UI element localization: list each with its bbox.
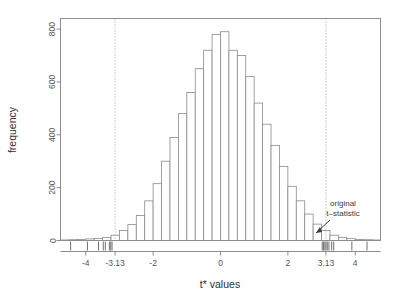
y-axis-title: frequency xyxy=(6,106,18,153)
histogram-bar xyxy=(136,215,144,240)
histogram-bar xyxy=(237,56,245,241)
y-tick-label: 200 xyxy=(48,180,58,194)
histogram-bar xyxy=(246,77,254,241)
histogram-bar xyxy=(305,214,313,240)
histogram-bar xyxy=(229,50,237,240)
histogram-bar xyxy=(162,161,170,240)
histogram-bar xyxy=(288,186,296,240)
histogram-bar xyxy=(170,137,178,240)
histogram-bar xyxy=(145,201,153,241)
x-tick-label: 3.13 xyxy=(318,258,335,268)
annotation-line-1: original xyxy=(330,199,356,208)
annotation-line-2: t–statistic xyxy=(326,209,359,218)
histogram-bar xyxy=(128,225,136,241)
histogram-figure: 0200400600800 -4-3.13-2023.134 t* values… xyxy=(0,0,402,298)
y-tick-label: 0 xyxy=(48,238,58,243)
y-tick-label: 600 xyxy=(48,75,58,89)
histogram-bar xyxy=(221,32,229,241)
histogram-bar xyxy=(271,145,279,240)
histogram-bar xyxy=(254,103,262,240)
x-tick-label: -4 xyxy=(82,258,90,268)
histogram-bar xyxy=(153,184,161,241)
histogram-bar xyxy=(187,93,195,241)
x-tick-label: 2 xyxy=(286,258,291,268)
histogram-bar xyxy=(279,167,287,241)
histogram-bar xyxy=(195,69,203,241)
x-axis-title: t* values xyxy=(200,278,240,290)
x-tick-label: -3.13 xyxy=(105,258,125,268)
histogram-bar xyxy=(330,235,338,240)
x-tick-label: -2 xyxy=(149,258,157,268)
histogram-bar xyxy=(212,34,220,240)
y-tick-label: 800 xyxy=(48,22,58,36)
histogram-bar xyxy=(296,201,304,241)
histogram-bar xyxy=(263,124,271,240)
histogram-bar xyxy=(119,230,127,240)
histogram-bar xyxy=(204,50,212,240)
x-tick-label: 0 xyxy=(218,258,223,268)
bootstrap-t-distribution-chart: 0200400600800 -4-3.13-2023.134 t* values… xyxy=(0,0,402,298)
x-tick-label: 4 xyxy=(353,258,358,268)
histogram-bar xyxy=(178,114,186,241)
y-tick-label: 400 xyxy=(48,127,58,141)
